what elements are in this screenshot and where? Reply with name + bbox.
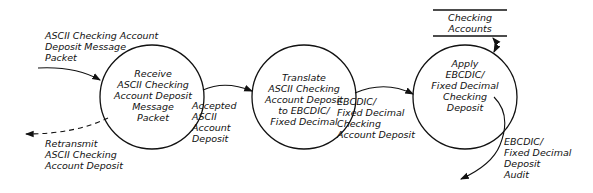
process-receive-label: Receive ASCII Checking Account Deposit M… <box>105 68 201 123</box>
process-apply-label: Apply EBCDIC/ Fixed Decimal Checking Dep… <box>417 58 513 113</box>
flow-retransmit-arrow <box>26 118 108 134</box>
flow-in-label: ASCII Checking Account Deposit Message P… <box>45 30 158 63</box>
flow-accepted-arrow <box>203 85 252 91</box>
datastore-label: Checking Accounts <box>433 12 507 34</box>
flow-accepted-label: Accepted ASCII Account Deposit <box>192 100 236 144</box>
flow-audit-label: EBCDIC/ Fixed Decimal Deposit Audit <box>504 136 571 180</box>
flow-store-arrow <box>493 38 496 52</box>
flow-retransmit-label: Retransmit ASCII Checking Account Deposi… <box>45 138 123 171</box>
flow-in-arrow <box>38 68 100 80</box>
flow-translated-arrow <box>355 87 413 94</box>
flow-translated-label: EBCDIC/ Fixed Decimal Checking Account D… <box>337 96 415 140</box>
